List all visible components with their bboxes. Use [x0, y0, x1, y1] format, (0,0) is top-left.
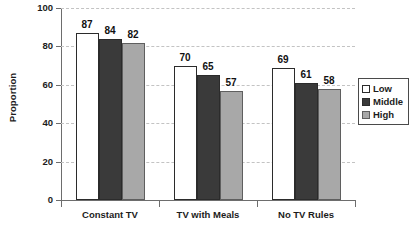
bar-value-label: 58: [314, 75, 345, 86]
bar-high-2: [318, 89, 341, 200]
y-axis-title: Proportion: [7, 53, 18, 143]
y-tick-label: 20: [20, 157, 53, 167]
bar-value-label: 69: [268, 54, 299, 65]
bar-chart: Proportion 020406080100 8784827065576961…: [0, 0, 411, 226]
legend-swatch-icon: [362, 111, 370, 119]
x-category-label-1: TV with Meals: [159, 209, 257, 220]
legend-item-high[interactable]: High: [362, 108, 405, 121]
legend-item-middle[interactable]: Middle: [362, 95, 405, 108]
bar-middle-0: [99, 39, 122, 200]
y-tick-label: 100: [20, 3, 53, 13]
x-category-label-0: Constant TV: [61, 209, 159, 220]
y-tick-label: 80: [20, 41, 53, 51]
bar-low-1: [174, 66, 197, 200]
bar-middle-1: [197, 75, 220, 200]
y-tick-label: 40: [20, 118, 53, 128]
x-tick-mark: [159, 201, 160, 207]
x-category-label-2: No TV Rules: [257, 209, 355, 220]
legend-label: Middle: [373, 97, 403, 107]
gridline: [61, 8, 355, 9]
bar-value-label: 57: [216, 77, 247, 88]
y-tick-label: 60: [20, 80, 53, 90]
legend-swatch-icon: [362, 85, 370, 93]
bar-value-label: 82: [118, 29, 149, 40]
legend-label: Low: [373, 84, 392, 94]
bar-high-1: [220, 91, 243, 200]
bar-low-0: [76, 33, 99, 200]
legend-swatch-icon: [362, 98, 370, 106]
bar-low-2: [272, 68, 295, 200]
x-tick-mark: [355, 201, 356, 207]
chart-legend: LowMiddleHigh: [358, 78, 409, 125]
y-tick-label: 0: [20, 195, 53, 205]
x-tick-mark: [61, 201, 62, 207]
bar-value-label: 65: [193, 61, 224, 72]
plot-area: 878482706557696158: [61, 8, 355, 200]
legend-label: High: [373, 110, 394, 120]
x-axis-line: [61, 200, 356, 201]
legend-item-low[interactable]: Low: [362, 82, 405, 95]
bar-middle-2: [295, 83, 318, 200]
bar-high-0: [122, 43, 145, 200]
x-tick-mark: [257, 201, 258, 207]
